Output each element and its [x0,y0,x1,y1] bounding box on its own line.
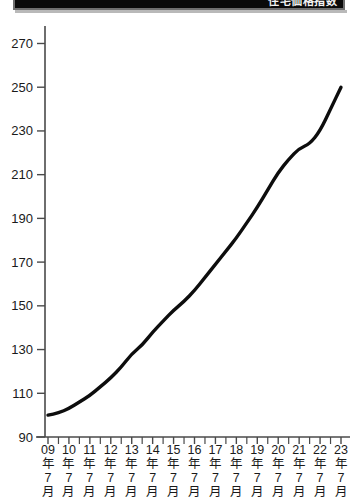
x-axis-labels: 09年7月10年7月11年7月12年7月13年7月14年7月15年7月16年7月… [0,443,356,504]
x-axis-label-part: 7 [101,471,121,485]
x-axis-label-part: 7 [310,471,330,485]
x-axis-label-part: 年 [38,457,58,471]
x-axis-label-part: 月 [289,485,309,499]
x-axis-label-part: 年 [164,457,184,471]
x-axis-label-part: 7 [226,471,246,485]
x-axis-label-part: 年 [122,457,142,471]
x-axis-label: 14年7月 [143,443,163,499]
x-axis-label-part: 月 [164,485,184,499]
x-axis-label-part: 年 [268,457,288,471]
x-axis-label: 22年7月 [310,443,330,499]
x-axis-label-part: 21 [289,443,309,457]
chart-svg: 90110130150170190210230250270 [0,0,356,504]
x-axis-label-part: 09 [38,443,58,457]
x-axis-label-part: 16 [185,443,205,457]
x-axis-label-part: 月 [310,485,330,499]
x-axis-label: 10年7月 [59,443,79,499]
x-axis-label-part: 7 [205,471,225,485]
x-axis-label-part: 10 [59,443,79,457]
data-series-line [48,87,341,415]
x-axis-label: 20年7月 [268,443,288,499]
x-axis-label: 19年7月 [247,443,267,499]
y-tick-label: 190 [11,211,33,226]
x-axis-label: 16年7月 [185,443,205,499]
x-axis-label-part: 年 [101,457,121,471]
x-axis-label-part: 14 [143,443,163,457]
x-axis-label-part: 月 [268,485,288,499]
x-axis-label: 11年7月 [80,443,100,499]
x-axis-label-part: 7 [80,471,100,485]
y-tick-label: 210 [11,167,33,182]
x-axis-label: 13年7月 [122,443,142,499]
y-tick-label: 170 [11,255,33,270]
y-tick-label: 150 [11,298,33,313]
x-axis-label-part: 15 [164,443,184,457]
x-axis-label-part: 7 [164,471,184,485]
x-axis-label-part: 月 [185,485,205,499]
x-axis-label-part: 年 [331,457,351,471]
x-axis-label: 09年7月 [38,443,58,499]
x-axis-label-part: 年 [226,457,246,471]
x-axis-label: 21年7月 [289,443,309,499]
x-axis-label-part: 20 [268,443,288,457]
line-chart: 90110130150170190210230250270 [0,0,356,504]
x-axis-label-part: 月 [101,485,121,499]
y-tick-label: 230 [11,123,33,138]
y-tick-label: 270 [11,36,33,51]
x-axis-label-part: 月 [143,485,163,499]
x-axis-label-part: 7 [247,471,267,485]
x-axis-label: 17年7月 [205,443,225,499]
x-axis-label-part: 年 [143,457,163,471]
x-axis-label-part: 月 [122,485,142,499]
x-axis-label-part: 19 [247,443,267,457]
x-axis-label-part: 月 [38,485,58,499]
x-axis-label-part: 月 [59,485,79,499]
x-axis-label-part: 7 [143,471,163,485]
x-axis-label: 12年7月 [101,443,121,499]
x-axis-label-part: 年 [247,457,267,471]
y-tick-label: 110 [12,386,33,401]
x-axis-label-part: 年 [289,457,309,471]
x-axis-label-part: 月 [247,485,267,499]
x-axis-label: 18年7月 [226,443,246,499]
x-axis-label-part: 月 [331,485,351,499]
x-axis-label-part: 11 [80,443,100,457]
x-axis-label-part: 7 [268,471,288,485]
x-axis-label-part: 月 [205,485,225,499]
x-axis-label-part: 7 [38,471,58,485]
x-axis-label-part: 17 [205,443,225,457]
x-axis-label-part: 年 [59,457,79,471]
x-axis-label-part: 7 [185,471,205,485]
x-axis-label-part: 年 [185,457,205,471]
x-axis-label-part: 22 [310,443,330,457]
x-axis-label-part: 7 [289,471,309,485]
x-axis-label-part: 年 [310,457,330,471]
x-axis-label-part: 7 [331,471,351,485]
x-axis-label-part: 23 [331,443,351,457]
x-axis-label: 15年7月 [164,443,184,499]
x-axis-label-part: 7 [59,471,79,485]
x-axis-label-part: 13 [122,443,142,457]
x-axis-label-part: 12 [101,443,121,457]
y-axis-ticks: 90110130150170190210230250270 [11,36,45,445]
x-axis-label-part: 月 [80,485,100,499]
x-axis-label-part: 7 [122,471,142,485]
x-axis-label-part: 18 [226,443,246,457]
x-axis-label: 23年7月 [331,443,351,499]
x-axis-label-part: 年 [80,457,100,471]
y-tick-label: 250 [11,80,33,95]
y-tick-label: 130 [11,342,33,357]
x-axis-label-part: 月 [226,485,246,499]
x-axis-label-part: 年 [205,457,225,471]
